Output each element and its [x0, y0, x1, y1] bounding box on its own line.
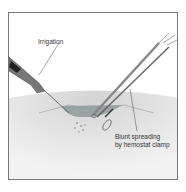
- clamp-label-line2: by hemostat clamp: [115, 141, 170, 149]
- illustration-frame: Irrigation Blunt spreading by hemostat c…: [8, 12, 178, 180]
- clamp-label-line1: Blunt spreading: [115, 133, 160, 141]
- irrigation-label: Irrigation: [38, 38, 63, 46]
- wound-illustration: [9, 13, 178, 180]
- irrigation-leader-line: [39, 43, 59, 75]
